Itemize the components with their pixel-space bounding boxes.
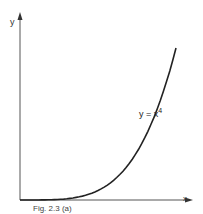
y-axis-arrow-icon [18, 12, 23, 20]
equation-exponent: 4 [158, 107, 162, 114]
equation-base: y = x [139, 109, 158, 119]
x-axis-label: x [183, 194, 187, 203]
figure: y x y = x4 Fig. 2.3 (a) [0, 0, 203, 214]
equation-label: y = x4 [139, 107, 162, 119]
figure-caption: Fig. 2.3 (a) [33, 204, 72, 213]
plot-area [0, 0, 203, 214]
y-axis-label: y [10, 17, 15, 27]
curve-y-equals-x4 [20, 48, 176, 200]
